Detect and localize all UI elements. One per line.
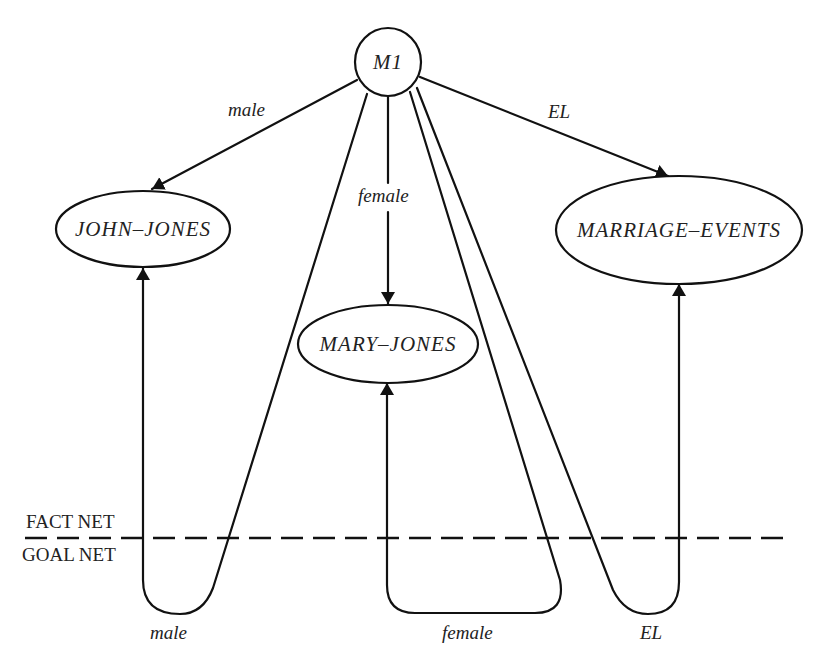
- node-mary-jones-label: MARY–JONES: [319, 332, 457, 356]
- semantic-network-diagram: FACT NET GOAL NET male EL female male fe…: [0, 0, 827, 669]
- node-marriage-events: MARRIAGE–EVENTS: [556, 176, 802, 284]
- goal-label-male: male: [150, 622, 187, 643]
- fact-net-label: FACT NET: [26, 511, 115, 532]
- goal-net-label: GOAL NET: [22, 544, 116, 565]
- edge-label-male: male: [228, 99, 265, 120]
- goal-label-female: female: [442, 622, 493, 643]
- node-m1: M1: [355, 28, 421, 96]
- edge-m1-marriage-events: [420, 77, 668, 176]
- edge-m1-john-jones: [152, 80, 357, 189]
- goal-label-el: EL: [639, 622, 662, 643]
- node-john-jones-label: JOHN–JONES: [75, 217, 211, 241]
- node-marriage-events-label: MARRIAGE–EVENTS: [576, 218, 781, 242]
- node-mary-jones: MARY–JONES: [298, 305, 478, 383]
- node-john-jones: JOHN–JONES: [56, 191, 230, 267]
- edge-label-female: female: [358, 185, 409, 206]
- edge-label-el: EL: [547, 101, 570, 122]
- node-m1-label: M1: [372, 50, 403, 74]
